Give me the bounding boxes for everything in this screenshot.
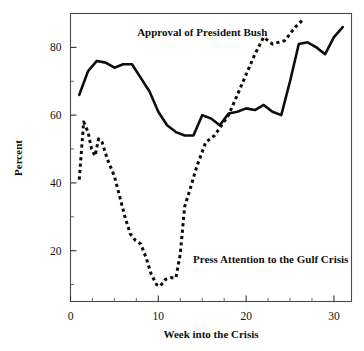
x-tick-label-30: 30 xyxy=(328,310,340,322)
chart-container: 20406080 0102030 Approval of President B… xyxy=(0,0,364,351)
y-axis-title: Percent xyxy=(12,140,24,176)
y-tick-label-40: 40 xyxy=(50,177,62,189)
y-tick-label-20: 20 xyxy=(50,245,62,257)
x-tick-label-20: 20 xyxy=(240,310,252,322)
y-tick-label-60: 60 xyxy=(50,109,62,121)
annotation-approval-label: Approval of President Bush xyxy=(137,26,267,38)
x-axis-title: Week into the Crisis xyxy=(163,328,259,340)
line-chart: 20406080 0102030 Approval of President B… xyxy=(0,0,364,351)
x-tick-label-0: 0 xyxy=(68,310,74,322)
x-tick-label-10: 10 xyxy=(153,310,165,322)
annotation-press-attention-label: Press Attention to the Gulf Crisis xyxy=(193,253,349,265)
y-tick-label-80: 80 xyxy=(50,41,62,53)
